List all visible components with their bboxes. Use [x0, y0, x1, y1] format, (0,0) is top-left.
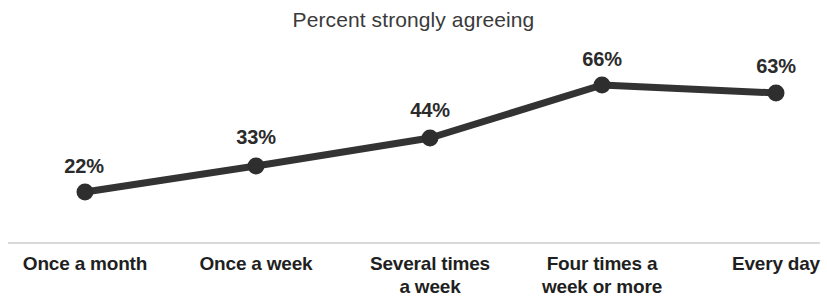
chart-container: Percent strongly agreeing 22%33%44%66%63…	[0, 0, 827, 303]
data-point-value-label: 22%	[64, 155, 103, 178]
category-label-line1: Every day	[732, 253, 820, 274]
data-point-value-label: 33%	[236, 126, 275, 149]
category-label-line1: Four times a	[547, 253, 658, 274]
category-label-line2: a week	[335, 275, 525, 298]
data-point-marker	[422, 130, 439, 147]
category-label-line1: Several times	[370, 253, 490, 274]
data-point-value-label: 66%	[582, 48, 621, 71]
category-label-line1: Once a week	[200, 253, 313, 274]
category-label-0: Once a month	[0, 252, 180, 275]
category-label-2: Several timesa week	[335, 252, 525, 298]
data-point-marker	[77, 184, 94, 201]
category-label-line2: week or more	[507, 275, 697, 298]
data-point-markers	[77, 77, 785, 201]
category-label-4: Every day	[681, 252, 827, 275]
data-point-marker	[594, 77, 611, 94]
data-point-marker	[248, 158, 265, 175]
category-label-3: Four times aweek or more	[507, 252, 697, 298]
category-axis-labels: Once a monthOnce a weekSeveral timesa we…	[0, 252, 827, 303]
data-point-marker	[768, 85, 785, 102]
category-label-line1: Once a month	[23, 253, 147, 274]
category-label-1: Once a week	[161, 252, 351, 275]
data-point-value-label: 63%	[756, 55, 795, 78]
data-point-value-label: 44%	[410, 99, 449, 122]
